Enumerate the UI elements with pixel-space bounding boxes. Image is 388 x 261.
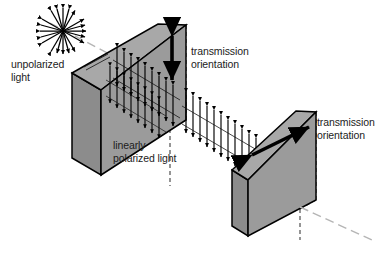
linearly-polarized-light-label: linearly polarized light	[113, 139, 176, 164]
transmission-orientation-label-first: transmission orientation	[191, 45, 249, 70]
unpolarized-light-starburst	[40, 8, 86, 54]
transmission-orientation-label-second: transmission orientation	[317, 116, 375, 141]
incident-ray-dashed-line	[50, 23, 113, 56]
unpolarized-light-label: unpolarized light	[11, 58, 64, 83]
exit-ray-dashed-line	[300, 207, 374, 241]
polarization-diagram: unpolarized light transmission orientati…	[0, 0, 388, 261]
second-filter-side-face	[232, 170, 248, 236]
